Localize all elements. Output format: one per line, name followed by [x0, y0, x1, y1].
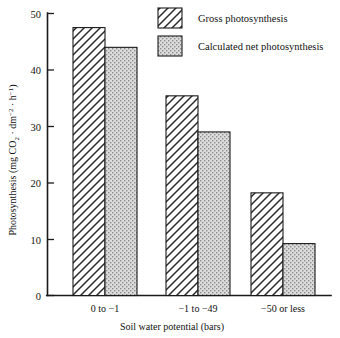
category-label-2: −50 or less	[261, 303, 305, 314]
category-label-1: −1 to −49	[178, 303, 217, 314]
y-axis-tick-labels: 50 40 30 20 10 0	[31, 9, 42, 302]
bar-gross-2	[251, 193, 283, 296]
legend-swatch-net	[158, 36, 182, 56]
y-tick-label: 50	[31, 9, 42, 20]
bar-net-0	[105, 47, 137, 295]
y-axis-title: Photosynthesis (mg CO2 · dm−2 · h−1)	[7, 84, 21, 235]
y-title-close: )	[7, 84, 19, 87]
legend-swatch-gross	[158, 8, 182, 28]
y-title-main: Photosynthesis (mg CO	[7, 141, 19, 236]
y-tick-label: 40	[31, 65, 42, 76]
bar-net-2	[283, 244, 315, 296]
bar-gross-1	[166, 96, 198, 296]
y-tick-label: 10	[31, 235, 42, 246]
y-title-mid: · dm	[7, 116, 18, 137]
bar-group-1	[166, 96, 230, 296]
svg-text:Photosynthesis (mg CO2 · dm−2: Photosynthesis (mg CO2 · dm−2 · h−1)	[7, 84, 21, 235]
bar-gross-0	[73, 28, 105, 296]
legend-label-net: Calculated net photosynthesis	[198, 41, 323, 52]
bar-net-1	[198, 132, 230, 296]
x-axis-title: Soil water potential (bars)	[120, 321, 224, 333]
category-label-0: 0 to −1	[91, 303, 119, 314]
bar-group-2	[251, 193, 315, 296]
chart-svg: 50 40 30 20 10 0 0 to −1 −1 to −49 −50 o…	[0, 0, 340, 338]
y-tick-label: 30	[31, 122, 42, 133]
bar-group-0	[73, 28, 137, 296]
y-tick-label: 20	[31, 178, 42, 189]
legend-label-gross: Gross photosynthesis	[198, 13, 288, 24]
y-title-mid2: · h	[7, 95, 18, 108]
y-tick-label: 0	[36, 291, 41, 302]
x-axis-category-labels: 0 to −1 −1 to −49 −50 or less	[91, 303, 305, 314]
legend: Gross photosynthesis Calculated net phot…	[158, 8, 323, 56]
y-axis-ticks	[48, 14, 55, 296]
bar-chart-figure: 50 40 30 20 10 0 0 to −1 −1 to −49 −50 o…	[0, 0, 340, 338]
